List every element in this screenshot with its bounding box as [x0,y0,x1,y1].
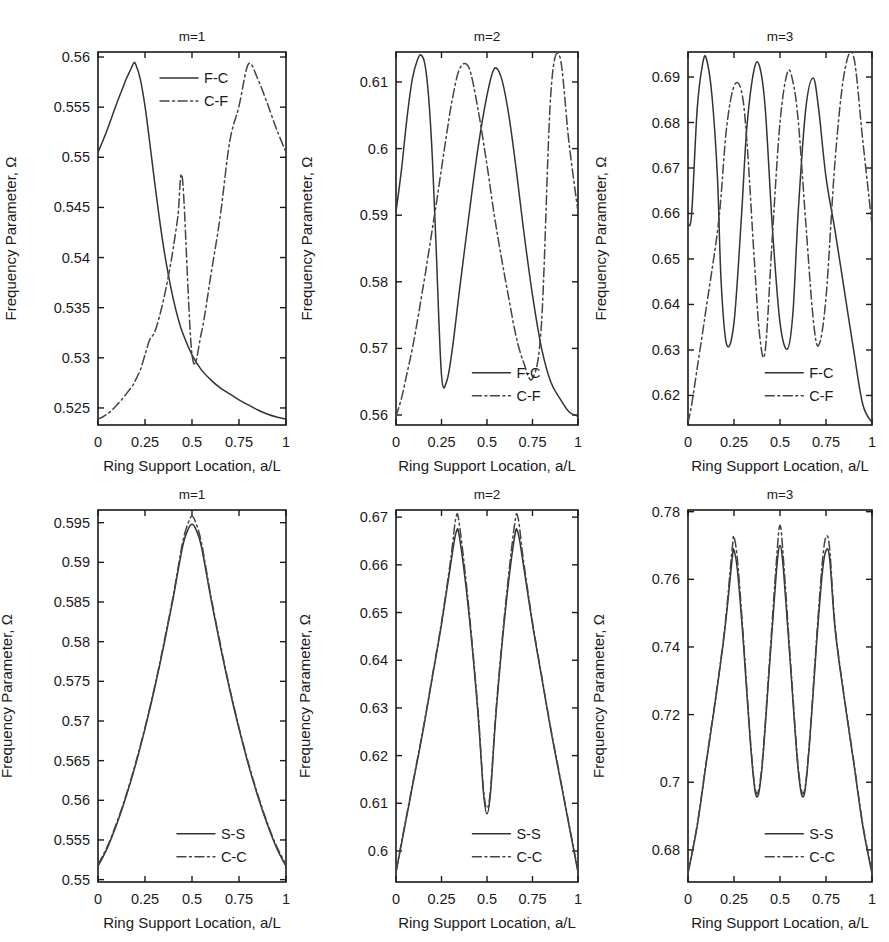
panel-title: m=2 [474,487,501,502]
y-axis-label: Frequency Parameter, Ω [590,614,607,778]
y-tick-label: 0.53 [62,350,90,366]
panel-top-mid: m=200.250.50.7510.560.570.580.590.60.61F… [296,18,592,480]
legend-label: C-F [204,93,228,109]
x-tick-label: 1 [574,434,582,450]
x-tick-label: 0.75 [812,891,840,907]
panel-top-right: m=300.250.50.7510.620.630.640.650.660.67… [590,18,889,480]
y-tick-label: 0.68 [652,115,680,131]
y-tick-label: 0.57 [360,340,388,356]
legend: S-SC-C [472,826,542,865]
y-tick-label: 0.56 [62,49,90,65]
x-tick-label: 0 [684,434,692,450]
panel-title: m=1 [179,29,206,44]
x-tick-label: 0 [94,434,102,450]
y-tick-label: 0.66 [360,557,388,573]
x-tick-label: 0.75 [812,434,840,450]
y-tick-label: 0.69 [652,69,680,85]
x-tick-label: 0 [94,891,102,907]
y-tick-label: 0.62 [652,387,680,403]
y-tick-label: 0.56 [62,792,90,808]
series-line-c-f [396,53,578,416]
legend: F-CC-F [765,365,833,404]
legend-label: C-F [809,388,833,404]
y-tick-label: 0.65 [652,251,680,267]
y-tick-label: 0.61 [360,795,388,811]
legend-label: C-C [221,849,247,865]
panel-bottom-right: m=300.250.50.7510.680.70.720.740.760.78F… [590,482,889,942]
series-line-c-c [688,525,872,872]
y-tick-label: 0.55 [62,149,90,165]
series-line-s-s [396,529,578,873]
y-tick-label: 0.535 [54,300,90,316]
y-tick-label: 0.555 [54,832,90,848]
y-tick-label: 0.565 [54,753,90,769]
y-tick-label: 0.74 [652,639,680,655]
y-tick-label: 0.525 [54,400,90,416]
y-tick-label: 0.64 [360,652,388,668]
x-tick-label: 0.75 [518,891,546,907]
legend-label: C-F [516,388,540,404]
legend-label: S-S [809,826,833,842]
series-line-c-c [98,516,286,864]
panel-title: m=3 [767,487,794,502]
y-tick-label: 0.585 [54,594,90,610]
x-tick-label: 0.5 [477,891,497,907]
x-tick-label: 0.75 [225,434,253,450]
x-tick-label: 0.75 [225,891,253,907]
x-tick-label: 0.25 [131,891,159,907]
x-axis-label: Ring Support Location, a/L [398,457,576,474]
axes-frame [688,52,872,425]
x-tick-label: 0.5 [770,891,790,907]
y-tick-label: 0.595 [54,515,90,531]
x-tick-label: 0 [392,434,400,450]
series-line-f-c [396,55,578,417]
x-tick-label: 0.25 [131,434,159,450]
figure-canvas: m=100.250.50.7510.5250.530.5350.540.5450… [0,0,889,942]
y-axis-label: Frequency Parameter, Ω [298,157,315,321]
legend: F-CC-F [160,70,228,109]
y-tick-label: 0.67 [360,509,388,525]
y-tick-label: 0.55 [62,872,90,888]
y-tick-label: 0.59 [62,554,90,570]
x-tick-label: 0.25 [427,891,455,907]
series-line-f-c [688,56,872,423]
x-tick-label: 0.5 [182,434,202,450]
x-tick-label: 1 [868,434,876,450]
legend: S-SC-C [765,826,835,865]
x-tick-label: 1 [868,891,876,907]
x-tick-label: 0.5 [182,891,202,907]
y-axis-label: Frequency Parameter, Ω [0,614,15,778]
y-tick-label: 0.54 [62,250,90,266]
y-axis-label: Frequency Parameter, Ω [592,157,609,321]
x-tick-label: 0.25 [720,891,748,907]
legend: S-SC-C [177,826,247,865]
x-tick-label: 0.5 [477,434,497,450]
y-tick-label: 0.545 [54,199,90,215]
x-axis-label: Ring Support Location, a/L [691,914,869,931]
series-line-c-c [396,514,578,871]
y-axis-label: Frequency Parameter, Ω [296,614,313,778]
legend-label: S-S [516,826,540,842]
y-tick-label: 0.6 [368,141,388,157]
panel-title: m=3 [767,29,794,44]
panel-bottom-mid: m=200.250.50.7510.60.610.620.630.640.650… [296,482,592,942]
series-line-s-s [688,546,872,874]
legend: F-CC-F [472,365,540,404]
legend-label: C-C [809,849,835,865]
y-tick-label: 0.58 [360,274,388,290]
y-tick-label: 0.59 [360,207,388,223]
y-tick-label: 0.72 [652,707,680,723]
y-tick-label: 0.63 [360,700,388,716]
y-tick-label: 0.61 [360,74,388,90]
x-tick-label: 1 [574,891,582,907]
x-tick-label: 1 [282,434,290,450]
y-tick-label: 0.67 [652,160,680,176]
legend-label: F-C [516,365,540,381]
y-tick-label: 0.68 [652,842,680,858]
panel-top-left: m=100.250.50.7510.5250.530.5350.540.5450… [0,18,300,480]
legend-label: F-C [204,70,228,86]
series-line-s-s [98,524,286,866]
y-tick-label: 0.58 [62,634,90,650]
axes-frame [396,510,578,882]
y-tick-label: 0.65 [360,605,388,621]
